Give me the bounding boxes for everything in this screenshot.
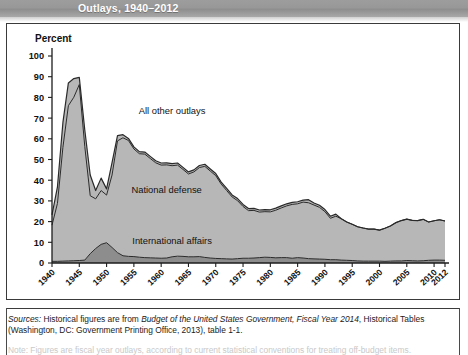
- sources-label: Sources:: [8, 314, 41, 324]
- note-label: Note:: [8, 345, 28, 355]
- y-tick-label: 20: [34, 217, 44, 227]
- y-tick-label: 100: [29, 51, 44, 61]
- y-tick-label: 50: [34, 155, 44, 165]
- y-tick-label: 70: [34, 114, 44, 124]
- stacked-area-chart: 0102030405060708090100194019451950195519…: [7, 24, 461, 301]
- x-tick-label: 1960: [145, 267, 166, 288]
- note-text: Figures are fiscal year outlays, accordi…: [28, 345, 411, 355]
- x-tick-label: 1975: [227, 267, 248, 288]
- sources-title-italic: Budget of the United States Government, …: [141, 314, 359, 324]
- footnote-divider: [6, 308, 460, 309]
- annotation-label: National defense: [131, 184, 201, 195]
- y-tick-label: 90: [34, 72, 44, 82]
- x-tick-label: 2000: [364, 267, 385, 288]
- page-title: Outlays, 1940–2012: [78, 2, 179, 14]
- x-tick-label: 1995: [336, 267, 357, 288]
- x-tick-label: 1970: [200, 267, 221, 288]
- x-tick-label: 1950: [91, 267, 112, 288]
- x-tick-label: 1980: [254, 267, 275, 288]
- x-tick-label: 1990: [309, 267, 330, 288]
- x-tick-label: 1985: [282, 267, 303, 288]
- sources-note: Sources: Historical figures are from Bud…: [8, 314, 460, 336]
- annotation-label: All other outlays: [139, 105, 206, 116]
- chart-plot-area: 0102030405060708090100194019451950195519…: [7, 24, 461, 301]
- x-tick-label: 2005: [391, 267, 412, 288]
- header-band: Outlays, 1940–2012: [0, 0, 468, 17]
- y-tick-label: 40: [34, 176, 44, 186]
- footnote-left-rule: [6, 308, 7, 355]
- x-tick-label: 1965: [173, 267, 194, 288]
- x-tick-label: 1940: [36, 267, 57, 288]
- note-cutoff: Note: Figures are fiscal year outlays, a…: [8, 345, 460, 355]
- y-tick-label: 30: [34, 196, 44, 206]
- x-tick-label: 1945: [63, 267, 84, 288]
- figure-container: Percent 01020304050607080901001940194519…: [6, 23, 460, 300]
- y-tick-label: 0: [39, 258, 44, 268]
- y-tick-label: 80: [34, 93, 44, 103]
- y-tick-label: 10: [34, 238, 44, 248]
- sources-text-1: Historical figures are from: [41, 314, 141, 324]
- x-tick-label: 1955: [118, 267, 139, 288]
- annotation-label: International affairs: [132, 235, 212, 246]
- header-shadow: [0, 17, 468, 22]
- y-tick-label: 60: [34, 134, 44, 144]
